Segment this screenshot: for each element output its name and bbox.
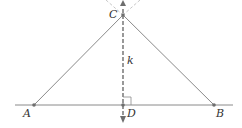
label-b: B <box>215 107 224 120</box>
label-k: k <box>127 54 134 67</box>
segment-ac <box>34 15 123 105</box>
label-a: A <box>22 107 31 120</box>
label-c: C <box>109 8 118 21</box>
segment-bc <box>123 15 214 105</box>
point-a <box>32 103 36 107</box>
arrow-down-icon <box>120 116 126 123</box>
geometry-diagram: A B C D k <box>0 0 242 128</box>
label-d: D <box>126 107 136 120</box>
construction-line-right <box>123 0 140 15</box>
arrow-up-icon <box>120 0 126 6</box>
point-c <box>121 13 125 17</box>
point-d <box>121 103 125 107</box>
